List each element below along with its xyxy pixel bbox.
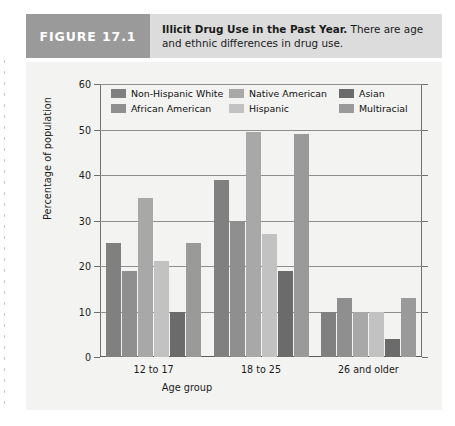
legend-item: Non-Hispanic White: [111, 88, 229, 99]
legend-label: Non-Hispanic White: [131, 88, 223, 99]
y-axis-tick: [422, 175, 428, 176]
legend-label: Asian: [359, 88, 385, 99]
page-margin-rule: [4, 60, 5, 410]
y-axis-tick: [422, 221, 428, 222]
bar: [122, 271, 137, 357]
figure-number-badge: FIGURE 17.1: [26, 14, 150, 58]
figure-caption: Illicit Drug Use in the Past Year. There…: [150, 14, 442, 58]
bar: [369, 312, 384, 358]
bar: [294, 134, 309, 357]
x-axis-tick-label: 26 and older: [338, 364, 399, 375]
bar: [385, 339, 400, 357]
y-axis-tick-label: 20: [79, 261, 91, 272]
bar: [170, 312, 185, 358]
y-axis-tick-label: 0: [85, 352, 91, 363]
y-axis-title: Percentage of population: [42, 97, 53, 220]
figure-header: FIGURE 17.1 Illicit Drug Use in the Past…: [26, 14, 442, 58]
bar: [401, 298, 416, 357]
y-axis-tick-label: 10: [79, 306, 91, 317]
x-axis-title: Age group: [162, 382, 213, 393]
x-axis-tick-label: 18 to 25: [241, 364, 281, 375]
y-axis-tick: [422, 84, 428, 85]
y-axis-tick-label: 30: [79, 215, 91, 226]
bar: [321, 312, 336, 358]
x-axis-tick-label: 12 to 17: [134, 364, 174, 375]
y-axis-tick: [422, 266, 428, 267]
legend-swatch: [111, 104, 126, 113]
legend-item: Asian: [339, 88, 429, 99]
bar: [246, 132, 261, 357]
y-axis-tick: [422, 312, 428, 313]
bar-group: [321, 84, 416, 357]
y-axis-tick-label: 50: [79, 124, 91, 135]
legend-label: African American: [131, 103, 211, 114]
legend-label: Hispanic: [249, 103, 289, 114]
legend-label: Multiracial: [359, 103, 408, 114]
legend-label: Native American: [249, 88, 327, 99]
legend-swatch: [229, 89, 244, 98]
legend-item: Native American: [229, 88, 339, 99]
chart-panel: Percentage of population 0102030405060 1…: [26, 62, 442, 410]
legend-item: African American: [111, 103, 229, 114]
bar: [262, 234, 277, 357]
bar: [154, 261, 169, 357]
legend-item: Multiracial: [339, 103, 429, 114]
y-axis-tick: [94, 357, 100, 358]
bar: [138, 198, 153, 357]
page-background: FIGURE 17.1 Illicit Drug Use in the Past…: [0, 0, 455, 426]
bar: [353, 312, 368, 358]
y-axis-tick-label: 40: [79, 170, 91, 181]
bar-series-container: [100, 84, 422, 357]
chart-legend: Non-Hispanic WhiteNative AmericanAsianAf…: [111, 86, 429, 116]
bar: [186, 243, 201, 357]
y-axis-tick: [422, 130, 428, 131]
bar: [337, 298, 352, 357]
bar: [278, 271, 293, 357]
legend-swatch: [229, 104, 244, 113]
legend-swatch: [111, 89, 126, 98]
bar: [214, 180, 229, 357]
y-axis-tick: [422, 357, 428, 358]
legend-swatch: [339, 104, 354, 113]
plot-area: 0102030405060: [100, 84, 422, 357]
y-axis-tick-label: 60: [79, 79, 91, 90]
bar-group: [214, 84, 309, 357]
bar: [106, 243, 121, 357]
bar-group: [106, 84, 201, 357]
bar: [230, 221, 245, 358]
figure-caption-title: Illicit Drug Use in the Past Year.: [162, 23, 347, 35]
legend-item: Hispanic: [229, 103, 339, 114]
legend-swatch: [339, 89, 354, 98]
